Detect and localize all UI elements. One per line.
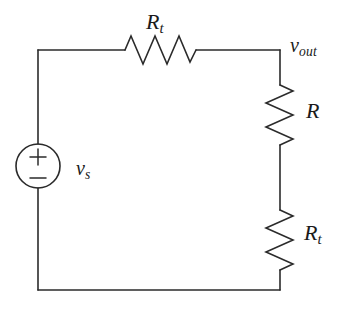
voltage-source-label-sub: s (85, 167, 91, 182)
resistor-right-upper-zigzag (266, 85, 293, 145)
circuit-diagram-canvas: Rt vout R Rt vs (0, 0, 337, 310)
node-output-label: vout (290, 35, 317, 55)
voltage-source-symbol (16, 144, 60, 188)
resistor-top-label-main: R (146, 9, 159, 34)
resistor-right-lower-label-main: R (304, 220, 317, 245)
resistor-right-upper-label-main: R (306, 98, 319, 123)
resistor-top-zigzag (125, 36, 196, 64)
circuit-schematic-svg (0, 0, 337, 310)
resistor-top-label: Rt (146, 11, 164, 33)
resistor-right-lower-label-sub: t (317, 231, 321, 247)
resistor-right-upper-label: R (306, 100, 319, 122)
voltage-source-label: vs (76, 158, 90, 178)
plus-icon (30, 149, 46, 165)
node-output-label-sub: out (299, 44, 317, 59)
node-output-label-main: v (290, 34, 299, 56)
voltage-source-label-main: v (76, 157, 85, 179)
resistor-right-lower-zigzag (266, 210, 293, 270)
resistor-top-label-sub: t (159, 20, 163, 36)
resistor-right-lower-label: Rt (304, 222, 322, 244)
